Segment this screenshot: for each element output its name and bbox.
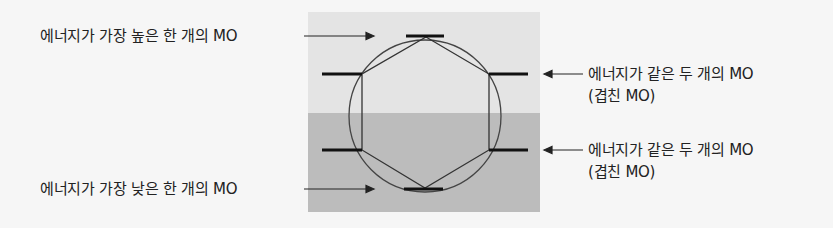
arrow-head-lower bbox=[544, 147, 552, 154]
label-upper-degenerate-2: (겹친 MO) bbox=[588, 85, 655, 107]
label-lowest-mo: 에너지가 가장 낮은 한 개의 MO bbox=[40, 178, 237, 200]
label-lower-degenerate-2: (겹친 MO) bbox=[588, 161, 655, 183]
label-highest-mo: 에너지가 가장 높은 한 개의 MO bbox=[40, 25, 237, 47]
upper-energy-region bbox=[308, 12, 540, 113]
label-lower-degenerate-1: 에너지가 같은 두 개의 MO bbox=[588, 139, 753, 161]
lower-energy-region bbox=[308, 113, 540, 212]
arrow-head-upper bbox=[544, 71, 552, 78]
label-upper-degenerate-1: 에너지가 같은 두 개의 MO bbox=[588, 63, 753, 85]
